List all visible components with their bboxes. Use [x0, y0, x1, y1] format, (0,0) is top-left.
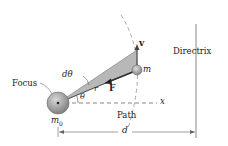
- path-label: Path: [117, 111, 136, 120]
- d-arrow-left: [59, 130, 64, 134]
- d-arrow-right: [190, 130, 195, 134]
- x-axis-label: x: [160, 97, 165, 106]
- focus-point: [57, 102, 60, 105]
- d-label: d: [122, 126, 128, 135]
- central-mass-label: m0: [51, 116, 63, 127]
- directrix-label: Directrix: [173, 47, 211, 56]
- mass-label: m: [143, 65, 151, 74]
- focus-label: Focus: [12, 79, 37, 88]
- r-label: r: [94, 85, 98, 93]
- diagram-graphics: [0, 0, 228, 146]
- focus-leader: [40, 83, 52, 94]
- theta-arc: [77, 95, 79, 103]
- theta-label: θ: [80, 93, 85, 101]
- dtheta-label: dθ: [62, 70, 73, 79]
- orbiting-mass: [132, 65, 142, 75]
- orbital-diagram: Focus Directrix Path dθ θ r F v m m0 x d: [0, 0, 228, 146]
- velocity-label: v: [139, 39, 144, 48]
- central-mass-symbol: m: [51, 115, 59, 125]
- force-label: F: [109, 84, 115, 93]
- central-mass-subscript: 0: [59, 120, 63, 127]
